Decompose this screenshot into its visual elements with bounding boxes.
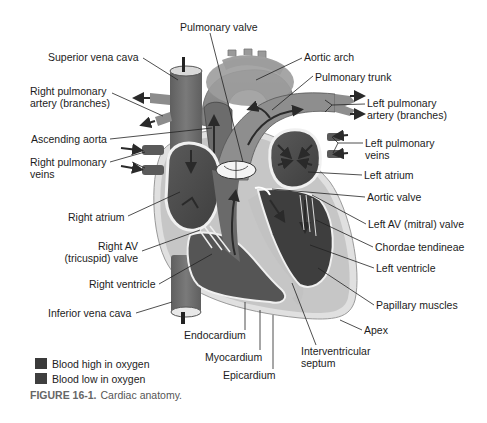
label-interventricular-septum-line1: Interventricular — [301, 345, 370, 357]
label-left-atrium: Left atrium — [364, 169, 414, 181]
label-epicardium: Epicardium — [223, 369, 276, 381]
label-pulmonary-trunk: Pulmonary trunk — [315, 71, 391, 83]
label-left-ventricle: Left ventricle — [376, 262, 436, 274]
label-right-ventricle: Right ventricle — [89, 278, 156, 290]
label-left-av-mitral-valve: Left AV (mitral) valve — [368, 218, 464, 230]
label-myocardium: Myocardium — [205, 351, 262, 363]
label-interventricular-septum-line2: septum — [301, 357, 335, 369]
label-right-pulmonary-artery-line1: Right pulmonary — [30, 85, 106, 97]
figure-caption: FIGURE 16-1.Cardiac anatomy. — [30, 389, 182, 401]
label-left-pulmonary-artery-line2: artery (branches) — [367, 109, 447, 121]
label-right-av-valve-line1: Right AV — [60, 240, 138, 252]
label-aortic-valve: Aortic valve — [367, 191, 421, 203]
label-right-pulmonary-artery-line2: artery (branches) — [30, 97, 110, 109]
swatch-low-oxygen — [35, 373, 47, 384]
label-ascending-aorta: Ascending aorta — [31, 133, 107, 145]
label-right-atrium: Right atrium — [68, 211, 125, 223]
swatch-high-oxygen — [35, 358, 47, 369]
label-right-pulmonary-veins-line1: Right pulmonary — [30, 156, 106, 168]
label-superior-vena-cava: Superior vena cava — [48, 51, 138, 63]
label-chordae-tendineae: Chordae tendineae — [375, 241, 464, 253]
legend-item-low-oxygen: Blood low in oxygen — [35, 371, 150, 386]
caption-text: Cardiac anatomy. — [101, 389, 183, 401]
legend-label-low-oxygen: Blood low in oxygen — [52, 373, 145, 385]
label-papillary-muscles: Papillary muscles — [376, 299, 458, 311]
label-right-pulmonary-veins-line2: veins — [30, 168, 55, 180]
label-right-av-valve-line2: (tricuspid) valve — [60, 252, 138, 264]
label-apex: Apex — [364, 324, 388, 336]
cardiac-anatomy-figure: Pulmonary valve Superior vena cava Right… — [0, 0, 487, 423]
right-atrium-shape — [166, 143, 220, 230]
legend: Blood high in oxygen Blood low in oxygen — [35, 356, 150, 386]
caption-number: FIGURE 16-1. — [30, 389, 97, 401]
label-pulmonary-valve: Pulmonary valve — [180, 21, 258, 33]
pulmonary-valve-shape — [216, 161, 256, 179]
legend-item-high-oxygen: Blood high in oxygen — [35, 356, 150, 371]
label-left-pulmonary-veins-line2: veins — [365, 149, 390, 161]
legend-label-high-oxygen: Blood high in oxygen — [52, 358, 150, 370]
label-inferior-vena-cava: Inferior vena cava — [48, 307, 131, 319]
label-endocardium: Endocardium — [184, 329, 246, 341]
label-left-pulmonary-veins-line1: Left pulmonary — [365, 137, 434, 149]
left-atrium-shape — [270, 130, 321, 188]
label-left-pulmonary-artery-line1: Left pulmonary — [367, 97, 436, 109]
label-aortic-arch: Aortic arch — [304, 51, 354, 63]
